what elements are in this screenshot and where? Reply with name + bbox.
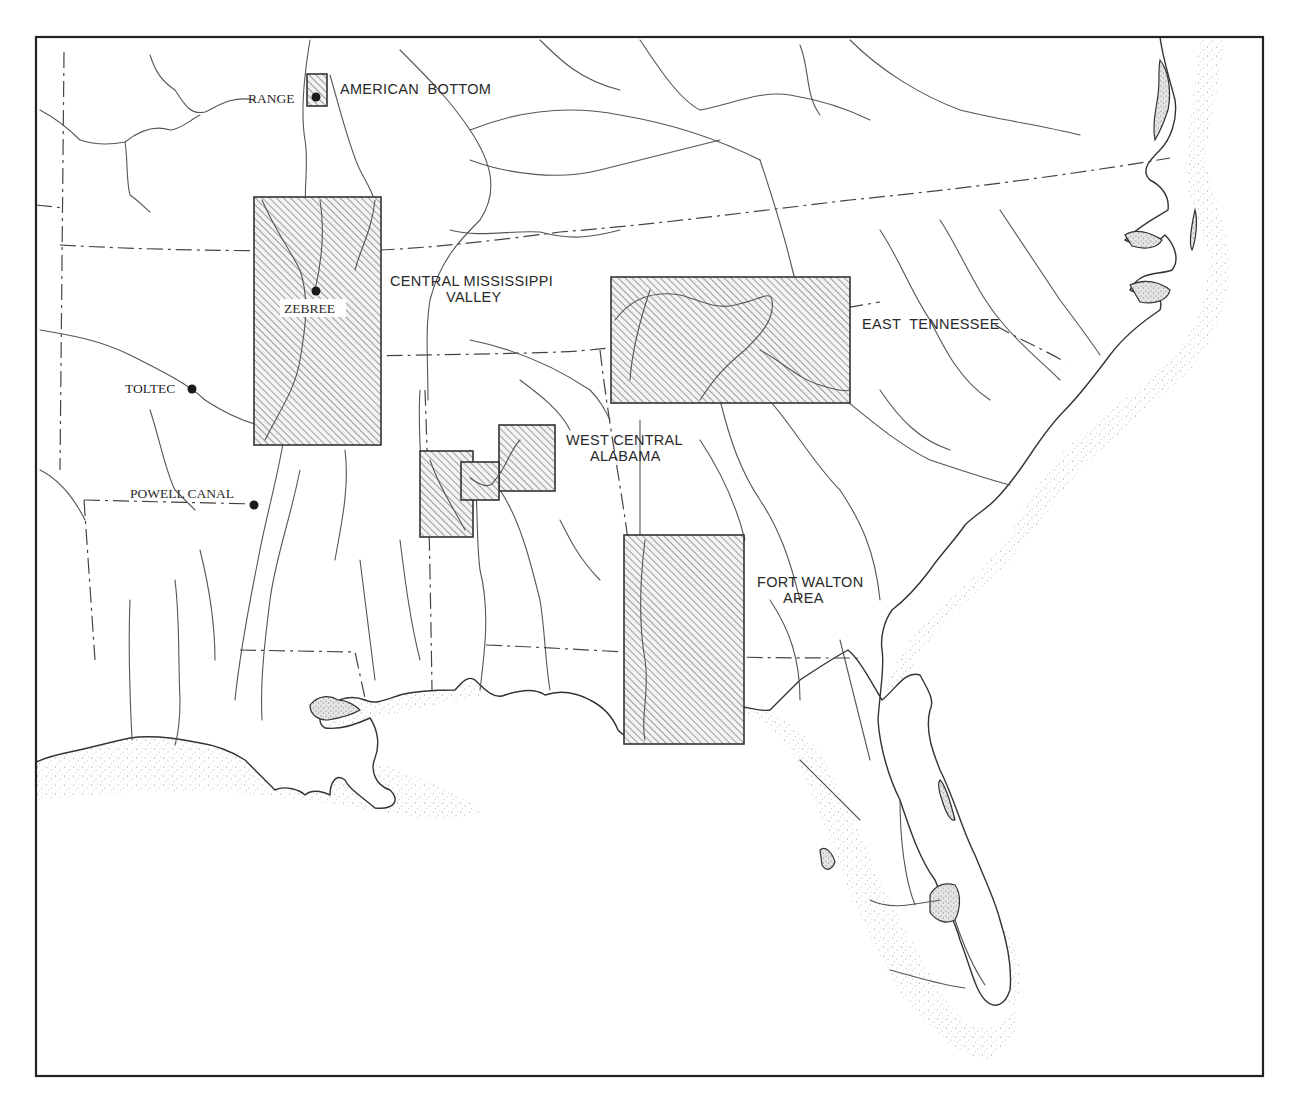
site-dot-zebree[interactable]	[312, 287, 321, 296]
label-central-mississippi-line2: VALLEY	[446, 289, 502, 305]
label-toltec: TOLTEC	[125, 381, 175, 396]
label-fort-walton-line2: AREA	[783, 590, 824, 606]
study-area-east-tennessee[interactable]	[611, 277, 850, 403]
site-dot-range[interactable]	[312, 93, 321, 102]
southeastern-us-map: RANGE AMERICAN BOTTOM ZEBREE CENTRAL MIS…	[0, 0, 1293, 1108]
site-dot-toltec[interactable]	[188, 385, 197, 394]
label-american-bottom: AMERICAN BOTTOM	[340, 81, 491, 97]
study-area-central-mississippi-valley[interactable]	[254, 197, 381, 445]
label-powell-canal: POWELL CANAL	[130, 486, 234, 501]
label-zebree: ZEBREE	[284, 301, 335, 316]
label-central-mississippi-line1: CENTRAL MISSISSIPPI	[390, 273, 553, 289]
site-dot-powell-canal[interactable]	[250, 501, 259, 510]
study-area-west-central-alabama-2[interactable]	[461, 462, 499, 500]
study-area-west-central-alabama-3[interactable]	[499, 425, 555, 491]
label-west-central-line1: WEST CENTRAL	[566, 432, 683, 448]
label-east-tennessee: EAST TENNESSEE	[862, 316, 1000, 332]
label-fort-walton-line1: FORT WALTON	[757, 574, 863, 590]
label-range: RANGE	[248, 91, 295, 106]
label-west-central-line2: ALABAMA	[590, 448, 661, 464]
lake-okeechobee	[930, 884, 960, 922]
